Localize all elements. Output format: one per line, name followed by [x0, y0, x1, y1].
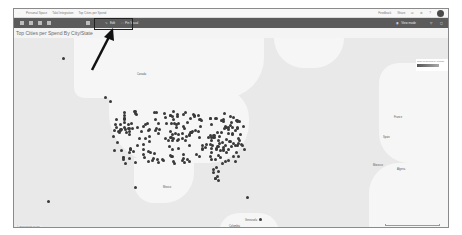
map-data-point[interactable] [124, 162, 127, 165]
map-data-point[interactable] [47, 200, 50, 203]
map-data-point[interactable] [242, 125, 245, 128]
map-data-point[interactable] [128, 133, 131, 136]
map-data-point[interactable] [241, 144, 244, 147]
map-data-point[interactable] [227, 159, 230, 162]
map-data-point[interactable] [115, 126, 118, 129]
settings-icon[interactable]: ⚙ [420, 11, 423, 15]
map-data-point[interactable] [157, 122, 160, 125]
map-data-point[interactable] [237, 137, 240, 140]
map-data-point[interactable] [227, 148, 230, 151]
map-data-point[interactable] [147, 150, 150, 153]
map-data-point[interactable] [157, 161, 160, 164]
back-icon[interactable]: ← [18, 11, 21, 15]
map-data-point[interactable] [143, 156, 146, 159]
map-data-point[interactable] [172, 137, 175, 140]
map-data-point[interactable] [217, 179, 220, 182]
map-data-point[interactable] [181, 159, 184, 162]
map-data-point[interactable] [129, 147, 132, 150]
map-data-point[interactable] [164, 137, 167, 140]
map-data-point[interactable] [182, 125, 185, 128]
help-icon[interactable]: ? [429, 11, 431, 15]
map-data-point[interactable] [134, 110, 137, 113]
map-data-point[interactable] [128, 157, 131, 160]
map-data-point[interactable] [227, 132, 230, 135]
avatar[interactable] [437, 10, 444, 17]
comment-icon[interactable] [47, 21, 51, 25]
map-visual[interactable]: Sum of Spend by Month Canada Mexico Spai… [14, 38, 449, 228]
map-data-point[interactable] [222, 120, 225, 123]
map-data-point[interactable] [119, 128, 122, 131]
map-data-point[interactable] [234, 160, 237, 163]
map-data-point[interactable] [225, 138, 228, 141]
map-data-point[interactable] [243, 148, 246, 151]
map-data-point[interactable] [224, 160, 227, 163]
map-data-point[interactable] [227, 126, 230, 129]
notifications-icon[interactable]: ✉ [411, 11, 414, 15]
map-data-point[interactable] [237, 155, 240, 158]
map-data-point[interactable] [218, 135, 221, 138]
feedback-button[interactable]: Feedback [378, 11, 391, 15]
map-data-point[interactable] [200, 119, 203, 122]
map-data-point[interactable] [210, 139, 213, 142]
map-data-point[interactable] [158, 128, 161, 131]
map-data-point[interactable] [173, 162, 176, 165]
view-mode-button[interactable]: ◉ View mode [396, 21, 416, 25]
expand-icon[interactable]: ▢ [440, 21, 443, 25]
map-data-point[interactable] [104, 96, 107, 99]
map-data-point[interactable] [235, 151, 238, 154]
map-data-point[interactable] [215, 148, 218, 151]
refresh-icon[interactable] [38, 21, 42, 25]
map-data-point[interactable] [114, 123, 117, 126]
map-data-point[interactable] [210, 151, 213, 154]
share-button[interactable]: Share [397, 11, 405, 15]
map-data-point[interactable] [172, 110, 175, 113]
map-data-point[interactable] [217, 170, 220, 173]
filter-icon[interactable]: ▽ [430, 21, 432, 25]
map-data-point[interactable] [246, 196, 249, 199]
file-icon[interactable] [20, 21, 24, 25]
map-data-point[interactable] [177, 147, 180, 150]
map-data-point[interactable] [112, 135, 115, 138]
map-data-point[interactable] [259, 218, 262, 221]
map-data-point[interactable] [229, 140, 232, 143]
map-data-point[interactable] [223, 112, 226, 115]
map-data-point[interactable] [177, 138, 180, 141]
map-data-point[interactable] [175, 126, 178, 129]
map-data-point[interactable] [214, 117, 217, 120]
map-data-point[interactable] [147, 160, 150, 163]
map-data-point[interactable] [109, 100, 112, 103]
map-data-point[interactable] [234, 144, 237, 147]
map-data-point[interactable] [221, 162, 224, 165]
map-data-point[interactable] [201, 147, 204, 150]
bookmark-icon[interactable] [86, 21, 90, 25]
map-data-point[interactable] [231, 126, 234, 129]
map-data-point[interactable] [232, 155, 235, 158]
map-data-point[interactable] [171, 133, 174, 136]
map-data-point[interactable] [176, 115, 179, 118]
map-data-point[interactable] [198, 136, 201, 139]
view-icon[interactable] [29, 21, 33, 25]
map-data-point[interactable] [157, 132, 160, 135]
map-data-point[interactable] [113, 149, 116, 152]
map-data-point[interactable] [144, 123, 147, 126]
map-data-point[interactable] [181, 132, 184, 135]
map-data-point[interactable] [167, 139, 170, 142]
map-data-point[interactable] [134, 186, 137, 189]
map-data-point[interactable] [186, 158, 189, 161]
map-data-point[interactable] [163, 112, 166, 115]
map-data-point[interactable] [130, 122, 133, 125]
map-data-point[interactable] [165, 122, 168, 125]
map-data-point[interactable] [123, 114, 126, 117]
map-data-point[interactable] [62, 57, 65, 60]
map-data-point[interactable] [144, 137, 147, 140]
map-data-point[interactable] [116, 141, 119, 144]
map-data-point[interactable] [195, 153, 198, 156]
map-data-point[interactable] [225, 151, 228, 154]
map-data-point[interactable] [113, 129, 116, 132]
map-data-point[interactable] [217, 139, 220, 142]
map-data-point[interactable] [169, 130, 172, 133]
breadcrumb-item[interactable]: Talal Integration [52, 11, 73, 15]
breadcrumb-item[interactable]: Personal Space [26, 11, 47, 15]
map-attribution[interactable]: © Bing Terms of Use [15, 225, 42, 228]
map-data-point[interactable] [127, 127, 130, 130]
